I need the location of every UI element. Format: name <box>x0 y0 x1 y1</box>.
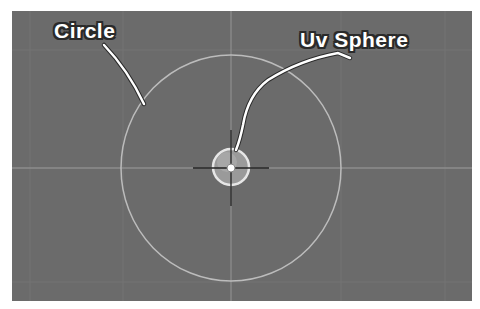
circle-leader-line <box>104 45 144 104</box>
sphere-callout-label: Uv Sphere <box>300 28 408 52</box>
annotation-overlay: Circle Uv Sphere <box>0 0 480 309</box>
circle-callout-label: Circle <box>54 19 115 43</box>
